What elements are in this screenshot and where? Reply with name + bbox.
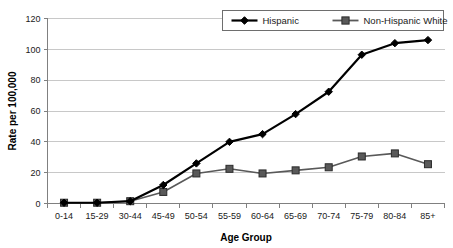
data-point-marker	[160, 188, 167, 195]
legend-label: Hispanic	[263, 15, 300, 26]
series-line	[64, 40, 428, 203]
data-point-marker	[292, 167, 299, 174]
legend[interactable]: HispanicNon-Hispanic White	[223, 11, 448, 31]
x-tick-label: 55-59	[218, 211, 241, 221]
y-tick-label: 120	[25, 14, 40, 24]
y-tick-label: 100	[25, 45, 40, 55]
data-point-marker	[424, 36, 431, 43]
x-tick-label: 50-54	[185, 211, 208, 221]
x-tick-label: 45-49	[152, 211, 175, 221]
x-axis-title: Age Group	[220, 232, 272, 243]
x-tick-label: 75-79	[350, 211, 373, 221]
x-tick-labels-group: 0-1415-2930-4445-4950-5455-5960-6465-697…	[55, 211, 436, 221]
series-line	[64, 153, 428, 202]
series-hispanic	[60, 36, 431, 206]
x-tick-label: 65-69	[284, 211, 307, 221]
gridlines-group	[48, 19, 445, 173]
legend-marker	[342, 17, 349, 24]
data-point-marker	[424, 161, 431, 168]
x-tick-label: 15-29	[86, 211, 109, 221]
x-tick-label: 85+	[420, 211, 435, 221]
data-point-marker	[391, 150, 398, 157]
data-point-marker	[325, 164, 332, 171]
x-tick-label: 30-44	[119, 211, 142, 221]
y-tick-label: 40	[30, 137, 40, 147]
data-point-marker	[391, 39, 398, 46]
data-point-marker	[358, 153, 365, 160]
x-tick-label: 70-74	[317, 211, 340, 221]
y-tick-label: 80	[30, 75, 40, 85]
y-tick-label: 20	[30, 168, 40, 178]
series-group	[60, 36, 431, 206]
series-non-hispanic-white	[61, 150, 432, 206]
y-axis-title: Rate per 100,000	[7, 71, 18, 150]
data-point-marker	[259, 170, 266, 177]
x-tick-label: 60-64	[251, 211, 274, 221]
y-tick-label: 0	[35, 199, 40, 209]
legend-label: Non-Hispanic White	[364, 15, 448, 26]
x-tick-marks-group	[48, 204, 445, 208]
y-tick-labels-group: 020406080100120	[25, 14, 47, 209]
data-point-marker	[193, 170, 200, 177]
x-tick-label: 80-84	[383, 211, 406, 221]
line-chart: 020406080100120 0-1415-2930-4445-4950-54…	[0, 0, 453, 248]
x-tick-label: 0-14	[55, 211, 73, 221]
data-point-marker	[226, 165, 233, 172]
y-tick-label: 60	[30, 106, 40, 116]
chart-canvas: 020406080100120 0-1415-2930-4445-4950-54…	[0, 0, 453, 248]
